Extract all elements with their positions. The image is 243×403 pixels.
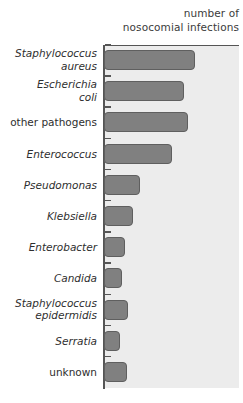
category-label: Enterococcus: [1, 148, 97, 161]
axis-tick: [105, 294, 111, 295]
bar: [104, 144, 172, 164]
axis-tick: [105, 169, 111, 170]
category-label: Serratia: [1, 335, 97, 348]
category-label: Klebsiella: [1, 210, 97, 223]
category-label: Staphylococcus epidermidis: [1, 297, 97, 322]
bar: [104, 50, 195, 70]
bar: [104, 237, 125, 257]
category-label: Candida: [1, 272, 97, 285]
bar-chart-figure: number of nosocomial infections Staphylo…: [0, 0, 243, 403]
bar: [104, 175, 140, 195]
axis-tick: [105, 44, 111, 45]
axis-title-line-1: number of: [108, 7, 239, 21]
bar: [104, 112, 188, 132]
axis-tick: [105, 325, 111, 326]
axis-title-line-2: nosocomial infections: [108, 21, 239, 35]
axis-tick: [105, 262, 111, 263]
bar: [104, 300, 128, 320]
category-label: Escherichia coli: [1, 78, 97, 103]
x-axis-title: number of nosocomial infections: [108, 7, 239, 34]
bar: [104, 362, 127, 382]
axis-tick: [105, 231, 111, 232]
category-label: Enterobacter: [1, 241, 97, 254]
bar: [104, 331, 120, 351]
axis-tick: [105, 106, 111, 107]
bar: [104, 81, 184, 101]
category-label: unknown: [1, 366, 97, 379]
category-label: Staphylococcus aureus: [1, 47, 97, 72]
bar: [104, 206, 133, 226]
bar: [104, 268, 122, 288]
axis-tick: [105, 356, 111, 357]
category-label: Pseudomonas: [1, 179, 97, 192]
category-label: other pathogens: [1, 116, 97, 129]
axis-tick: [105, 200, 111, 201]
axis-tick: [105, 75, 111, 76]
axis-tick: [105, 138, 111, 139]
